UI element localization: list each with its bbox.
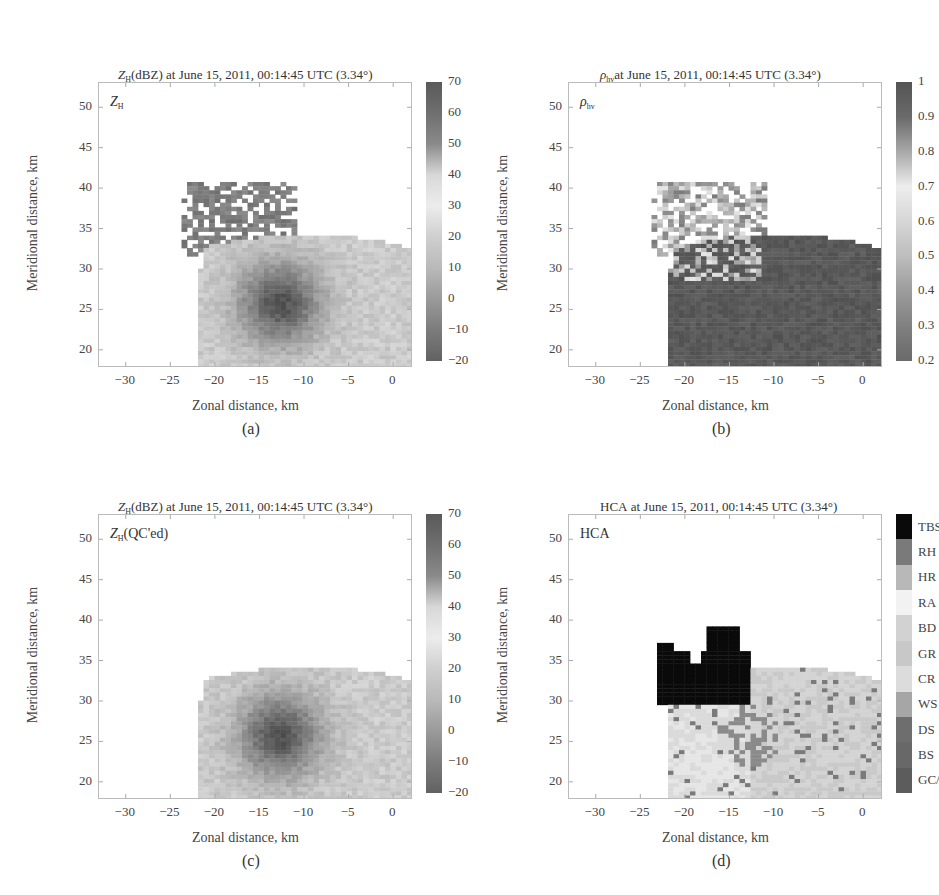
x-tick-label: −25 [621, 372, 657, 388]
x-tick-label: 0 [374, 804, 410, 820]
inner-label-symbol: ρ [580, 94, 587, 109]
radar-field [569, 83, 881, 366]
x-tick-label: −30 [577, 372, 613, 388]
colorbar-class-label: CR [918, 671, 935, 687]
x-tick-label: −5 [330, 372, 366, 388]
x-tick-label: 0 [374, 372, 410, 388]
x-tick-label: 0 [844, 372, 880, 388]
colorbar-tick-label: 0.3 [918, 317, 934, 333]
colorbar-tick-label: 1 [918, 73, 925, 89]
y-axis-label: Meridional distance, km [25, 138, 41, 308]
colorbar-tick-label: 40 [448, 598, 461, 614]
title-text: at June 15, 2011, 00:14:45 UTC (3.34°) [627, 499, 837, 514]
colorbar-class-label: TBSS [918, 519, 939, 535]
x-tick-label: −5 [800, 372, 836, 388]
colorbar-tick-label: 0.5 [918, 247, 934, 263]
title-symbol: HCA [600, 499, 627, 514]
inner-label-symbol: HCA [580, 526, 610, 541]
colorbar-tick-label: 0.6 [918, 213, 934, 229]
x-tick-label: −15 [240, 804, 276, 820]
x-tick-label: −25 [151, 804, 187, 820]
colorbar-class-label: GC/AP [918, 772, 939, 788]
colorbar-tick-label: 50 [448, 135, 461, 151]
radar-field [99, 515, 411, 798]
inner-label-symbol: Z [110, 94, 118, 109]
y-tick-label: 35 [534, 220, 562, 236]
colorbar-class-label: RH [918, 544, 936, 560]
x-tick-label: −30 [107, 804, 143, 820]
panel-d: HCA at June 15, 2011, 00:14:45 UTC (3.34… [470, 432, 939, 864]
colorbar-swatch [896, 742, 912, 768]
y-tick-label: 50 [64, 98, 92, 114]
y-tick-label: 30 [534, 260, 562, 276]
colorbar-tick-label: 20 [448, 660, 461, 676]
panel-caption: (c) [242, 852, 260, 870]
y-tick-label: 40 [534, 611, 562, 627]
colorbar-tick-label: 60 [448, 104, 461, 120]
colorbar-tick-label: 0.8 [918, 143, 934, 159]
colorbar-tick-label: 0 [448, 290, 455, 306]
colorbar-tick-label: 0.2 [918, 352, 934, 368]
inner-label-subscript: H [118, 102, 124, 111]
y-tick-label: 25 [534, 300, 562, 316]
x-axis-label: Zonal distance, km [192, 398, 299, 414]
y-tick-label: 25 [534, 732, 562, 748]
colorbar-tick-label: 0 [448, 722, 455, 738]
inner-label: ZH(QC'ed) [110, 526, 168, 543]
x-axis-label: Zonal distance, km [192, 830, 299, 846]
colorbar-swatch [896, 768, 912, 794]
y-axis-label: Meridional distance, km [495, 570, 511, 740]
colorbar [896, 514, 912, 793]
colorbar-swatch [896, 590, 912, 616]
colorbar-swatch [896, 539, 912, 565]
y-tick-label: 45 [534, 139, 562, 155]
x-tick-label: −15 [710, 804, 746, 820]
y-tick-label: 50 [534, 530, 562, 546]
x-tick-label: −10 [755, 372, 791, 388]
x-axis-label: Zonal distance, km [662, 398, 769, 414]
colorbar-tick-label: 0.7 [918, 178, 934, 194]
y-tick-label: 40 [64, 611, 92, 627]
x-tick-label: −5 [800, 804, 836, 820]
inner-label-text: (QC'ed) [124, 526, 169, 541]
x-tick-label: −25 [621, 804, 657, 820]
y-tick-label: 30 [534, 692, 562, 708]
x-tick-label: −25 [151, 372, 187, 388]
colorbar-class-label: HR [918, 569, 936, 585]
colorbar-swatch [896, 717, 912, 743]
radar-field [99, 83, 411, 366]
colorbar-tick-label: 20 [448, 228, 461, 244]
colorbar-tick-label: −10 [448, 753, 468, 769]
x-tick-label: −30 [107, 372, 143, 388]
inner-label: ρhv [580, 94, 595, 111]
colorbar-tick-label: −20 [448, 784, 468, 800]
y-tick-label: 50 [64, 530, 92, 546]
plot-area [568, 82, 882, 367]
panel-a: ZH(dBZ) at June 15, 2011, 00:14:45 UTC (… [0, 0, 469, 432]
colorbar-tick-label: 50 [448, 567, 461, 583]
y-tick-label: 35 [534, 652, 562, 668]
y-tick-label: 35 [64, 652, 92, 668]
panel-c: ZH(dBZ) at June 15, 2011, 00:14:45 UTC (… [0, 432, 469, 864]
y-axis-label: Meridional distance, km [495, 138, 511, 308]
colorbar-tick-label: 70 [448, 505, 461, 521]
inner-label: ZH [110, 94, 124, 111]
colorbar-tick-label: 70 [448, 73, 461, 89]
x-axis-label: Zonal distance, km [662, 830, 769, 846]
colorbar [426, 514, 442, 793]
y-tick-label: 40 [534, 179, 562, 195]
colorbar-tick-label: 60 [448, 536, 461, 552]
x-tick-label: −20 [196, 804, 232, 820]
x-tick-label: −5 [330, 804, 366, 820]
x-tick-label: −10 [285, 804, 321, 820]
colorbar-swatch [896, 514, 912, 540]
radar-field [569, 515, 881, 798]
y-tick-label: 25 [64, 732, 92, 748]
colorbar-class-label: BS [918, 747, 934, 763]
y-tick-label: 25 [64, 300, 92, 316]
title-text: (dBZ) at June 15, 2011, 00:14:45 UTC (3.… [131, 67, 373, 82]
x-tick-label: −10 [755, 804, 791, 820]
title-text: (dBZ) at June 15, 2011, 00:14:45 UTC (3.… [131, 499, 373, 514]
title-text: at June 15, 2011, 00:14:45 UTC (3.34°) [614, 67, 821, 82]
plot-area [98, 82, 412, 367]
